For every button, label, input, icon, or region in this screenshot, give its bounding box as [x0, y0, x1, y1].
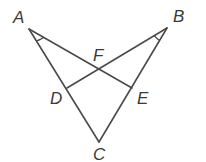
geometry-diagram: A B C D E F — [0, 0, 206, 162]
label-B: B — [173, 7, 184, 26]
label-A: A — [12, 8, 24, 27]
angle-mark-B — [154, 36, 160, 41]
label-D: D — [50, 89, 62, 108]
segment-AC — [29, 29, 99, 142]
segment-BC — [99, 28, 167, 142]
label-C: C — [93, 145, 106, 162]
label-E: E — [137, 89, 149, 108]
angle-mark-A — [36, 37, 43, 41]
label-F: F — [93, 46, 105, 65]
